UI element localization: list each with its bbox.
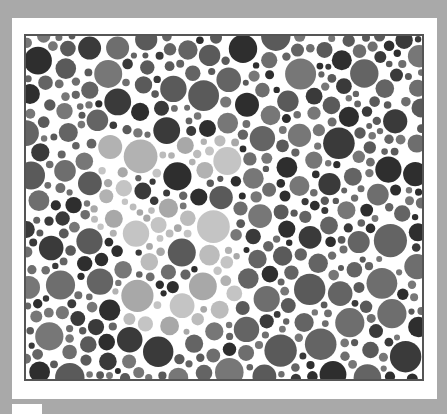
background-dot <box>87 139 97 149</box>
background-dot <box>44 308 54 318</box>
background-dot <box>354 364 382 379</box>
background-dot <box>215 358 244 379</box>
background-dot <box>406 187 412 193</box>
background-dot <box>377 128 383 134</box>
background-dot <box>281 298 296 313</box>
background-dot <box>415 189 422 196</box>
figure-dot <box>154 301 162 309</box>
background-dot <box>44 99 55 110</box>
background-dot <box>32 349 43 360</box>
background-dot <box>186 126 196 136</box>
background-dot <box>385 203 393 211</box>
background-dot <box>282 114 291 123</box>
background-dot <box>217 113 238 134</box>
background-dot <box>262 266 279 283</box>
background-dot <box>314 143 321 150</box>
background-dot <box>221 57 229 65</box>
background-dot <box>368 42 378 52</box>
figure-dot <box>160 317 179 336</box>
background-dot <box>122 125 131 134</box>
background-dot <box>69 36 76 39</box>
background-dot <box>263 241 273 251</box>
background-dot <box>369 96 380 107</box>
background-dot <box>160 76 186 102</box>
background-dot <box>99 353 117 371</box>
figure-dot <box>201 139 207 145</box>
background-dot <box>385 372 395 380</box>
figure-dot <box>213 267 221 275</box>
background-dot <box>43 295 49 301</box>
background-dot <box>239 193 246 200</box>
background-dot <box>394 335 400 341</box>
background-dot <box>96 371 104 379</box>
background-dot <box>403 162 422 186</box>
background-dot <box>38 75 53 90</box>
figure-dot <box>97 224 103 230</box>
background-dot <box>250 126 275 151</box>
figure-dot <box>193 150 201 158</box>
background-dot <box>56 103 72 119</box>
background-dot <box>30 311 42 323</box>
background-dot <box>26 162 45 190</box>
background-dot <box>196 354 204 362</box>
figure-dot <box>225 247 232 254</box>
background-dot <box>299 353 306 360</box>
background-dot <box>415 36 421 42</box>
background-dot <box>255 341 263 349</box>
background-dot <box>318 173 340 195</box>
background-dot <box>338 236 346 244</box>
background-dot <box>94 60 122 88</box>
background-dot <box>295 334 303 342</box>
background-dot <box>343 36 355 47</box>
background-dot <box>208 68 215 75</box>
figure-dot <box>184 230 192 238</box>
background-dot <box>328 74 337 83</box>
background-dot <box>87 302 98 313</box>
figure-dot <box>211 301 229 319</box>
background-dot <box>362 106 372 116</box>
background-dot <box>51 200 61 210</box>
background-dot <box>375 157 401 183</box>
background-dot <box>144 132 150 138</box>
background-dot <box>408 134 422 152</box>
background-dot <box>158 372 166 380</box>
figure-dot <box>122 199 128 205</box>
background-dot <box>390 185 401 196</box>
background-dot <box>306 44 315 53</box>
figure-dot <box>112 288 118 294</box>
background-dot <box>110 122 118 130</box>
background-dot <box>145 374 152 379</box>
figure-dot <box>196 162 213 179</box>
background-dot <box>26 354 31 364</box>
figure-dot <box>124 140 158 174</box>
background-dot <box>279 326 286 333</box>
background-dot <box>412 243 421 252</box>
background-dot <box>87 268 113 294</box>
background-dot <box>376 79 395 98</box>
background-dot <box>238 129 248 139</box>
figure-dot <box>213 147 241 175</box>
figure-dot <box>90 205 97 212</box>
background-dot <box>373 117 381 125</box>
background-dot <box>243 80 249 86</box>
background-dot <box>135 36 157 51</box>
figure-dot <box>110 230 117 237</box>
figure-dot <box>233 253 239 259</box>
background-dot <box>381 148 388 155</box>
background-dot <box>76 228 102 254</box>
background-dot <box>367 268 398 299</box>
background-dot <box>26 247 32 258</box>
background-dot <box>291 363 300 372</box>
figure-dot <box>137 209 144 216</box>
background-dot <box>328 251 336 259</box>
background-dot <box>77 273 84 280</box>
background-dot <box>164 43 176 55</box>
background-dot <box>369 324 383 338</box>
background-dot <box>279 126 287 134</box>
background-dot <box>362 342 379 359</box>
background-dot <box>52 263 58 269</box>
background-dot <box>274 311 281 318</box>
background-dot <box>261 106 281 126</box>
figure-dot <box>143 215 150 222</box>
background-dot <box>59 123 78 142</box>
